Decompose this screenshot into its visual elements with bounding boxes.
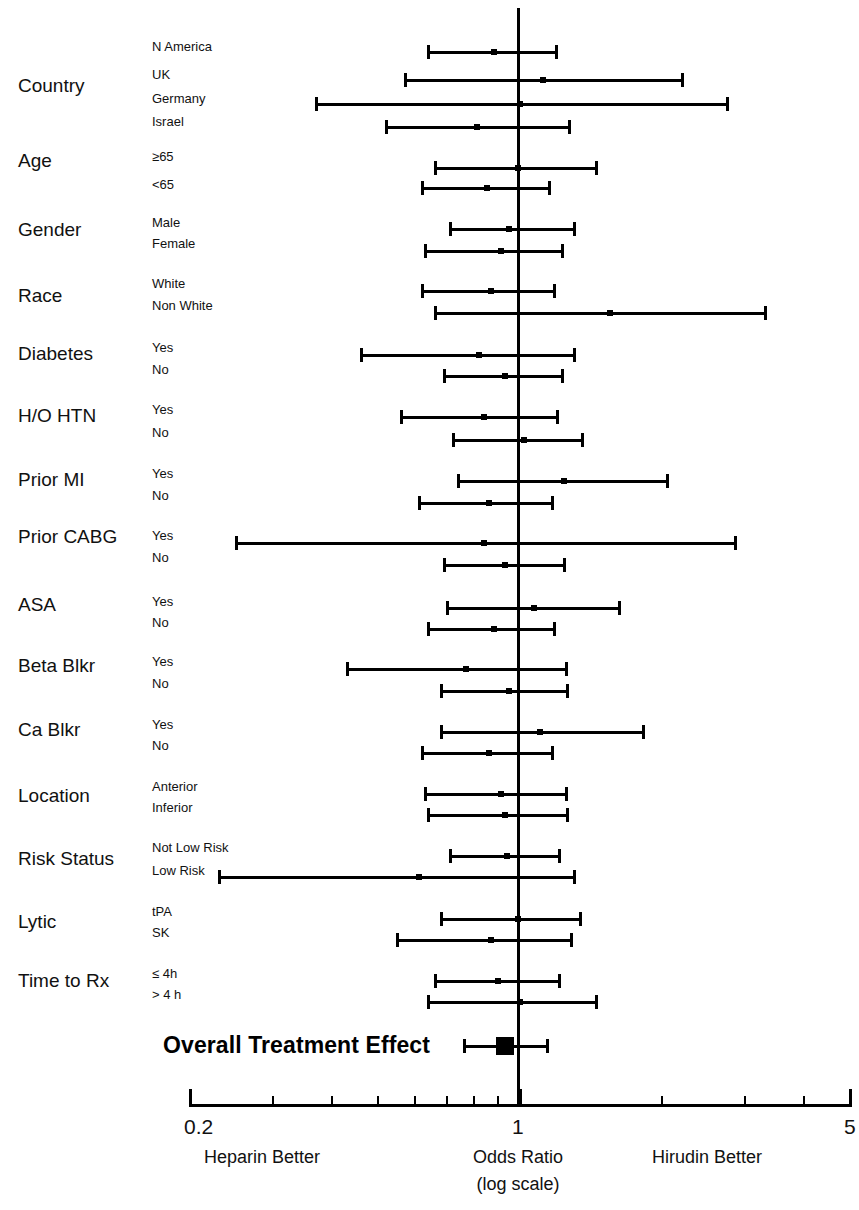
point-estimate-marker [521, 437, 527, 443]
ci-cap-lower [434, 974, 437, 988]
point-estimate-marker [498, 248, 504, 254]
ci-cap-lower [360, 348, 363, 362]
ci-cap-lower [434, 161, 437, 175]
axis-tick-label-one: 1 [512, 1116, 524, 1137]
x-axis-tick [189, 1089, 192, 1107]
ci-cap-lower [400, 410, 403, 424]
ci-cap-lower [440, 912, 443, 926]
ci-cap-upper [573, 348, 576, 362]
point-estimate-marker [607, 310, 613, 316]
x-axis-tick [497, 1096, 499, 1107]
ci-cap-upper [561, 369, 564, 383]
point-estimate-marker [481, 414, 487, 420]
point-estimate-marker [491, 626, 497, 632]
axis-caption-left: Heparin Better [204, 1147, 320, 1167]
confidence-interval-line [219, 876, 574, 879]
point-estimate-marker [517, 101, 523, 107]
confidence-interval-line [441, 690, 567, 693]
point-estimate-marker [515, 916, 521, 922]
point-estimate-marker [517, 999, 523, 1005]
x-axis-tick [377, 1096, 379, 1107]
axis-caption-logscale: (log scale) [477, 1174, 560, 1194]
ci-cap-upper [566, 808, 569, 822]
ci-cap-upper [573, 222, 576, 236]
point-estimate-marker [540, 77, 546, 83]
ci-cap-upper [734, 536, 737, 550]
ci-cap-lower [440, 725, 443, 739]
ci-cap-upper [551, 496, 554, 510]
point-estimate-marker [495, 978, 501, 984]
ci-cap-upper [546, 1039, 549, 1053]
confidence-interval-line [347, 668, 566, 671]
x-axis-tick [661, 1096, 663, 1107]
confidence-interval-line [361, 354, 574, 357]
ci-cap-upper [726, 97, 729, 111]
point-estimate-marker [486, 500, 492, 506]
confidence-interval-line [401, 416, 557, 419]
confidence-interval-line [425, 250, 562, 253]
ci-cap-upper [573, 870, 576, 884]
ci-cap-upper [555, 45, 558, 59]
x-axis-tick [272, 1096, 274, 1107]
axis-caption-right: Hirudin Better [652, 1147, 762, 1167]
ci-cap-lower [463, 1039, 466, 1053]
x-axis-tick [331, 1096, 333, 1107]
x-axis-tick [849, 1089, 852, 1107]
confidence-interval-line [425, 793, 565, 796]
ci-cap-upper [565, 787, 568, 801]
ci-cap-upper [548, 181, 551, 195]
overall-treatment-effect-label: Overall Treatment Effect [163, 1034, 430, 1057]
point-estimate-marker [502, 812, 508, 818]
ci-cap-lower [427, 622, 430, 636]
ci-cap-upper [568, 120, 571, 134]
point-estimate-marker [502, 373, 508, 379]
point-estimate-marker [506, 226, 512, 232]
ci-cap-upper [570, 933, 573, 947]
confidence-interval-line [435, 312, 765, 315]
axis-tick-label-max: 5 [844, 1116, 856, 1137]
ci-cap-lower [452, 433, 455, 447]
ci-cap-lower [446, 601, 449, 615]
ci-cap-upper [561, 244, 564, 258]
ci-cap-lower [346, 662, 349, 676]
point-estimate-marker [486, 750, 492, 756]
confidence-interval-line [441, 918, 580, 921]
point-estimate-marker [502, 562, 508, 568]
ci-cap-lower [443, 369, 446, 383]
ci-cap-lower [315, 97, 318, 111]
ci-cap-lower [427, 995, 430, 1009]
confidence-interval-line [428, 814, 567, 817]
ci-cap-upper [642, 725, 645, 739]
ci-cap-lower [421, 181, 424, 195]
x-axis-tick [446, 1096, 448, 1107]
ci-cap-upper [565, 662, 568, 676]
point-estimate-marker [537, 729, 543, 735]
point-estimate-marker [506, 688, 512, 694]
confidence-interval-line [428, 1001, 596, 1004]
ci-cap-upper [556, 410, 559, 424]
point-estimate-marker [416, 874, 422, 880]
ci-cap-lower [421, 284, 424, 298]
point-estimate-marker [463, 666, 469, 672]
ci-cap-upper [553, 622, 556, 636]
axis-tick-label-min: 0.2 [184, 1116, 213, 1137]
ci-cap-lower [449, 222, 452, 236]
x-axis-tick [519, 1089, 522, 1107]
ci-cap-upper [764, 306, 767, 320]
point-estimate-marker [476, 352, 482, 358]
ci-cap-upper [566, 684, 569, 698]
ci-cap-lower [440, 684, 443, 698]
ci-cap-upper [681, 73, 684, 87]
axis-caption-center: Odds Ratio [473, 1147, 563, 1167]
x-axis-tick [744, 1096, 746, 1107]
ci-cap-lower [218, 870, 221, 884]
point-estimate-marker [488, 937, 494, 943]
point-estimate-marker [561, 478, 567, 484]
x-axis-tick [414, 1096, 416, 1107]
ci-cap-lower [427, 808, 430, 822]
plot-area [0, 0, 859, 1210]
ci-cap-lower [424, 787, 427, 801]
ci-cap-upper [563, 558, 566, 572]
ci-cap-upper [558, 974, 561, 988]
forest-plot-figure: CountryAgeGenderRaceDiabetesH/O HTNPrior… [0, 0, 859, 1210]
